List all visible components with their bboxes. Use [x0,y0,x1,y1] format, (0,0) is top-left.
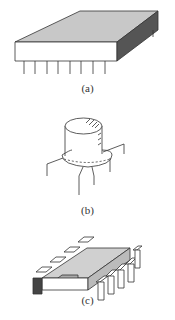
caption-c: (c) [0,294,175,306]
panel-c: (c) [0,210,175,320]
metal-can-illustration [0,110,175,210]
caption-a: (a) [0,82,175,94]
panel-a: (a) [0,0,175,100]
panel-b: (b) [0,110,175,210]
